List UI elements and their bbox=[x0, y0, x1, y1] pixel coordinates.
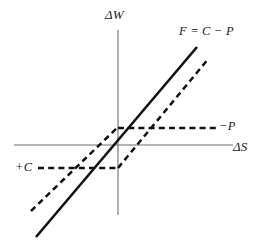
solid-forward-line bbox=[36, 47, 197, 237]
forward-curve-label: F = C − P bbox=[179, 25, 234, 38]
dashed-lower-diagonal bbox=[118, 58, 209, 168]
x-axis-label: ΔS bbox=[233, 140, 248, 153]
cap-level-label-minus-p: −P bbox=[219, 120, 235, 133]
floor-level-label-plus-c: +C bbox=[15, 161, 32, 174]
payoff-diagram: ΔW ΔS F = C − P −P +C bbox=[0, 0, 265, 247]
y-axis-label: ΔW bbox=[105, 8, 124, 21]
